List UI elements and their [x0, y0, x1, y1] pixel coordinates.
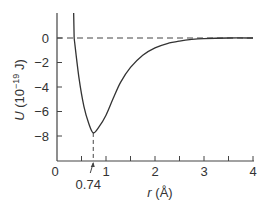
minimum-annotation: 0.74: [76, 162, 101, 192]
y-tick-label: 0: [42, 31, 49, 46]
x-tick-label: 1: [102, 164, 109, 179]
x-tick-label: 2: [151, 164, 158, 179]
potential-energy-chart: 012340−2−4−6−8 0.74 r (Å) U (10−19 J): [0, 0, 267, 204]
y-tick-label: −4: [34, 80, 49, 95]
x-tick-label: 4: [249, 164, 256, 179]
y-tick-label: −2: [34, 55, 49, 70]
min-annotation-label: 0.74: [76, 177, 101, 192]
y-tick-label: −8: [34, 129, 49, 144]
arrow-head-icon: [91, 162, 95, 167]
x-tick-label: 0: [51, 164, 58, 179]
y-tick-label: −6: [34, 104, 49, 119]
x-axis-label: r (Å): [147, 185, 172, 200]
x-tick-label: 3: [200, 164, 207, 179]
ticks: [57, 38, 253, 161]
axes: [57, 13, 254, 161]
y-axis-label: U (10−19 J): [11, 59, 27, 121]
potential-curve: [74, 13, 253, 133]
guide-lines: [57, 38, 254, 161]
